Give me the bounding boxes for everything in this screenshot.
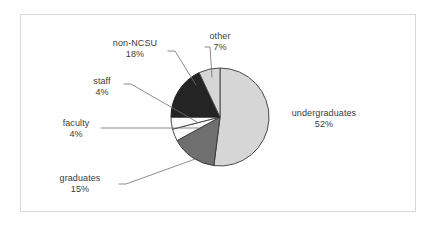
slice-label-undergraduates-name: undergraduates xyxy=(292,108,356,118)
slice-label-staff: staff 4% xyxy=(82,76,122,98)
pie-slice-undergraduates[interactable] xyxy=(214,68,269,166)
leader-line-graduates xyxy=(119,158,198,184)
pie-chart-figure: non-NCSU 18% other 7% staff 4% faculty 4… xyxy=(0,0,438,234)
slice-label-graduates-name: graduates xyxy=(60,173,101,183)
slice-label-non-ncsu-percent: 18% xyxy=(103,49,167,60)
slice-label-undergraduates: undergraduates 52% xyxy=(276,108,372,130)
slice-label-other: other 7% xyxy=(198,31,242,53)
slice-label-graduates-percent: 15% xyxy=(44,184,116,195)
slice-label-faculty: faculty 4% xyxy=(52,118,100,140)
slice-label-undergraduates-percent: 52% xyxy=(276,119,372,130)
slice-label-other-name: other xyxy=(209,31,230,41)
slice-label-other-percent: 7% xyxy=(198,42,242,53)
slice-label-faculty-percent: 4% xyxy=(52,129,100,140)
slice-label-staff-name: staff xyxy=(93,76,110,86)
slice-label-faculty-name: faculty xyxy=(63,118,90,128)
pie-slices xyxy=(171,68,269,166)
slice-label-non-ncsu-name: non-NCSU xyxy=(113,38,157,48)
slice-label-graduates: graduates 15% xyxy=(44,173,116,195)
slice-label-non-ncsu: non-NCSU 18% xyxy=(103,38,167,60)
slice-label-staff-percent: 4% xyxy=(82,87,122,98)
